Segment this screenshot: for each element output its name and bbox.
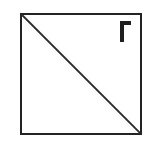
figure-canvas: Square with diagonal and right-angle mar… [0, 0, 146, 147]
geometry-figure [0, 0, 146, 147]
